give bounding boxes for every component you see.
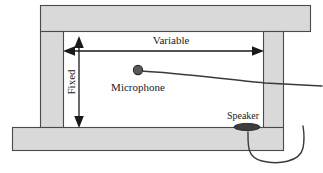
variable-arrow-left: [63, 46, 75, 56]
speaker-label: Speaker: [227, 110, 260, 121]
diagram-canvas: Variable Fixed Microphone Speaker: [0, 0, 323, 173]
chamber-walls: [13, 6, 311, 151]
fixed-label: Fixed: [65, 69, 77, 95]
top-wall: [41, 6, 311, 32]
acoustic-chamber-diagram: Variable Fixed Microphone Speaker: [0, 0, 323, 173]
bottom-wall: [13, 128, 284, 151]
microphone-dot: [133, 65, 142, 74]
fixed-arrow-bottom: [74, 116, 84, 128]
variable-dimension: [63, 46, 264, 56]
microphone-label: Microphone: [111, 81, 165, 93]
speaker-cone: [234, 123, 260, 130]
fixed-arrow-top: [74, 36, 84, 48]
left-wall: [41, 32, 64, 128]
right-wall: [264, 32, 284, 128]
variable-arrow-right: [252, 46, 264, 56]
variable-label: Variable: [153, 34, 190, 46]
microphone-wire: [141, 71, 322, 86]
